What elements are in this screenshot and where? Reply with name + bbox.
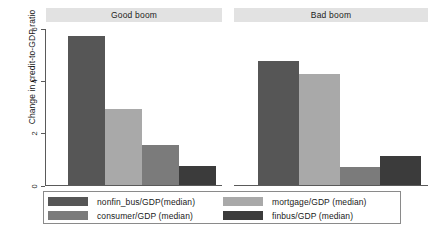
bar-bad-boom-3: [380, 156, 421, 185]
y-tick-mark-6: [41, 29, 45, 30]
chart-legend: nonfin_bus/GDP(median)mortgage/GDP (medi…: [43, 191, 401, 224]
y-tick-mark-4: [41, 81, 45, 82]
legend-label-0: nonfin_bus/GDP(median): [97, 197, 195, 207]
legend-label-1: mortgage/GDP (median): [272, 197, 367, 207]
legend-swatch-icon-3: [223, 211, 263, 220]
legend-label-2: consumer/GDP (median): [97, 211, 193, 221]
bar-bad-boom-2: [340, 167, 381, 185]
y-tick-mark-0: [41, 186, 45, 187]
y-tick-label-6: 6: [30, 22, 39, 38]
x-axis-line-bad-boom: [234, 185, 428, 186]
legend-grid: nonfin_bus/GDP(median)mortgage/GDP (medi…: [48, 195, 398, 222]
panel-strip-label-bad-boom: Bad boom: [311, 10, 351, 20]
bar-good-boom-2: [142, 145, 179, 185]
bar-bad-boom-1: [299, 74, 340, 185]
plot-area-good-boom: [46, 29, 222, 186]
panel-strip-label-good-boom: Good boom: [111, 10, 157, 20]
legend-swatch-icon-1: [223, 197, 263, 206]
bar-chart-figure: Change in credit-to-GDP ratio 6 4 2 0 Go…: [0, 0, 444, 236]
legend-item-3[interactable]: finbus/GDP (median): [223, 209, 398, 222]
bar-bad-boom-0: [258, 61, 299, 185]
bar-good-boom-3: [179, 166, 216, 186]
panel-strip-good-boom: Good boom: [46, 8, 222, 22]
y-tick-label-0: 0: [30, 179, 39, 195]
x-axis-line-good-boom: [46, 185, 222, 186]
legend-swatch-icon-2: [48, 211, 88, 220]
panel-good-boom: Good boom: [46, 8, 222, 186]
panel-bad-boom: Bad boom: [234, 8, 428, 186]
bar-group-good-boom: [46, 29, 222, 185]
legend-swatch-icon-0: [48, 197, 88, 206]
legend-item-2[interactable]: consumer/GDP (median): [48, 209, 223, 222]
y-tick-label-4: 4: [30, 74, 39, 90]
bar-group-bad-boom: [234, 29, 428, 185]
bar-good-boom-1: [105, 109, 142, 185]
y-tick-label-2: 2: [30, 126, 39, 142]
plot-area-bad-boom: [234, 29, 428, 186]
bar-good-boom-0: [68, 36, 105, 185]
y-tick-mark-2: [41, 133, 45, 134]
legend-item-1[interactable]: mortgage/GDP (median): [223, 195, 398, 208]
legend-label-3: finbus/GDP (median): [272, 211, 353, 221]
panel-strip-bad-boom: Bad boom: [234, 8, 428, 22]
legend-item-0[interactable]: nonfin_bus/GDP(median): [48, 195, 223, 208]
